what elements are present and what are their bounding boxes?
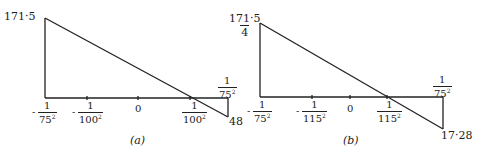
diagram-a-tick-0: 1 752 (38, 101, 57, 125)
diagram-a-tick-1-sign: - (72, 107, 75, 117)
diagram-b-tick-0-sign: - (247, 106, 250, 116)
diagram-b-top-right-fraction: 1 752 (433, 75, 452, 99)
diagram-a-caption: (a) (130, 134, 145, 147)
diagram-a-bottom-value: 48 (229, 116, 243, 127)
diagram-b-caption: (b) (343, 134, 359, 147)
diagram-b-tick-0: 1 752 (253, 100, 272, 124)
diagram-a-top-right-fraction: 1 752 (218, 76, 237, 100)
diagram-b-tick-1: 1 1152 (302, 100, 327, 124)
diagram-b-top-value: 171·5 4 (228, 13, 262, 38)
diagram-a-tick-2: 0 (135, 104, 141, 114)
diagram-a-tick-1: 1 1002 (78, 101, 103, 125)
diagram-b-tick-2: 0 (347, 104, 353, 114)
diagram-b-tick-3: 1 1152 (377, 100, 402, 124)
diagram-b-tick-1-sign: - (296, 106, 299, 116)
diagram-b-bottom-value: 17·28 (441, 130, 473, 141)
diagram-a-top-value: 171·5 (4, 11, 36, 22)
diagram-a-tick-0-sign: - (32, 107, 35, 117)
diagram-a-tick-3: 1 1002 (182, 101, 207, 125)
